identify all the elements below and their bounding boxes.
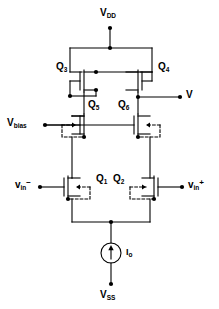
circuit-schematic [0, 0, 219, 309]
dot-tail-node [109, 220, 113, 224]
label-vdd: VDD [100, 8, 116, 18]
label-q5: Q5 [88, 100, 99, 110]
label-q4: Q4 [158, 62, 169, 72]
q1-bulk-arrow [76, 185, 80, 190]
dot-vout-terminal [178, 95, 182, 99]
label-q6: Q6 [118, 100, 129, 110]
dot-vin-plus-terminal [180, 185, 184, 189]
dot-vbias-terminal [43, 123, 47, 127]
dot-vdd-rail [108, 46, 112, 50]
label-vss: VSS [100, 290, 115, 300]
dot-vss-terminal [109, 282, 113, 286]
dot-q1-bulk [66, 197, 70, 201]
dot-vdd-terminal [108, 26, 112, 30]
dot-q3-drain [94, 88, 98, 92]
q2-bulk-arrow [142, 185, 146, 190]
dot-q6-bulk [136, 135, 140, 139]
q6-bulk-tie [138, 125, 160, 137]
q6-bulk-arrow [146, 123, 150, 128]
label-vbias: Vbias [7, 118, 27, 128]
label-vout: V [186, 90, 193, 100]
dot-q5-bulk [82, 135, 86, 139]
dot-vin-minus-terminal [38, 185, 42, 189]
q5-bulk-tie [62, 125, 84, 137]
label-q2: Q2 [113, 174, 124, 184]
dot-output-node [136, 95, 140, 99]
label-current-source: Io [126, 248, 133, 257]
q1-bulk-tie [68, 187, 90, 199]
current-source-arrow-head [108, 245, 113, 250]
label-vin-plus: vin+ [188, 180, 204, 190]
label-q3: Q3 [56, 62, 67, 72]
label-q1: Q1 [96, 174, 107, 184]
dot-q3-gatewire [68, 94, 72, 98]
dot-q2-bulk [152, 197, 156, 201]
dot-q3-gate-node [94, 70, 98, 74]
label-vin-minus: vin− [15, 180, 31, 190]
